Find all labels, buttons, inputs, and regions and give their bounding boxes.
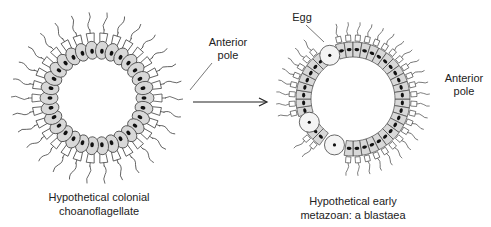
anterior-pole-label-right-line2: pole: [436, 85, 491, 98]
anterior-pole-label-left-line1: Anterior: [200, 36, 256, 49]
egg-cell: [320, 45, 340, 65]
blastaea-cell: [394, 90, 429, 99]
transition-arrow: [193, 98, 267, 106]
anterior-pole-label-left-line2: pole: [200, 49, 256, 62]
blastaea-cell: [344, 22, 353, 57]
anterior-pole-leader-line-left: [190, 63, 212, 90]
caption-choanoflagellate-line2: choanoflagellate: [37, 205, 161, 219]
blastaea-ring: [276, 22, 430, 176]
anterior-pole-label-right-line1: Anterior: [436, 72, 491, 85]
caption-blastaea-line2: metazoan: a blastaea: [290, 209, 416, 223]
blastaea-cell: [344, 140, 353, 175]
egg-cell: [324, 135, 344, 155]
caption-blastaea-line1: Hypothetical early: [290, 195, 416, 209]
blastaea-cell: [276, 99, 311, 108]
egg-cell: [299, 112, 319, 132]
egg-label-text: Egg: [289, 11, 315, 24]
caption-blastaea: Hypothetical early metazoan: a blastaea: [290, 195, 416, 222]
egg-label: Egg: [289, 11, 315, 24]
caption-choanoflagellate-line1: Hypothetical colonial: [37, 191, 161, 205]
anterior-pole-label-left: Anterior pole: [200, 36, 256, 62]
anterior-pole-label-right: Anterior pole: [436, 72, 491, 98]
blastaea-cell: [353, 140, 362, 175]
egg-leader-line: [306, 25, 324, 42]
caption-choanoflagellate: Hypothetical colonial choanoflagellate: [37, 191, 161, 218]
choanoflagellate-colony-ring: [11, 12, 183, 184]
